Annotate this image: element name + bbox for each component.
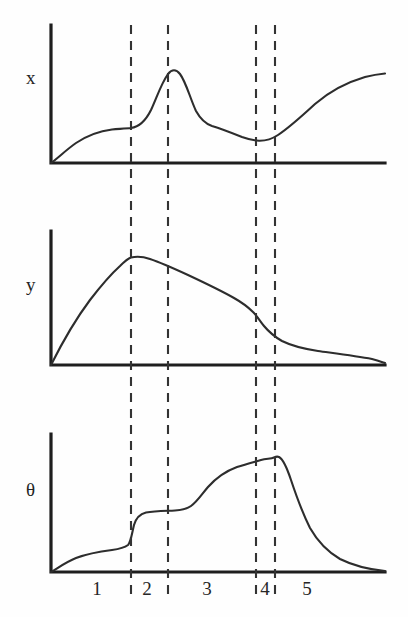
panel-y-axes — [51, 231, 385, 365]
panel-y-axis-label: y — [26, 275, 36, 294]
chart-canvas — [0, 0, 408, 617]
multi-panel-line-chart: x y θ 1 2 3 4 5 — [0, 0, 408, 617]
x-tick-label-3: 3 — [197, 579, 217, 598]
panel-theta-curve — [51, 456, 385, 572]
panel-theta-axis-label: θ — [26, 480, 35, 499]
panel-theta — [51, 434, 385, 572]
panel-y-curve — [51, 257, 385, 365]
x-tick-label-1: 1 — [87, 579, 107, 598]
panel-x-curve — [51, 70, 385, 163]
x-tick-label-4: 4 — [255, 579, 275, 598]
panel-y — [51, 231, 385, 365]
panel-x — [51, 25, 385, 163]
x-tick-label-2: 2 — [137, 579, 157, 598]
panel-x-axes — [51, 25, 385, 163]
panel-x-axis-label: x — [26, 68, 36, 87]
x-tick-label-5: 5 — [297, 579, 317, 598]
